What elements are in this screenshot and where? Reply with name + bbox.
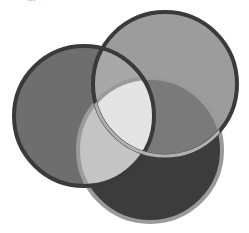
venn-diagram [0, 0, 249, 233]
